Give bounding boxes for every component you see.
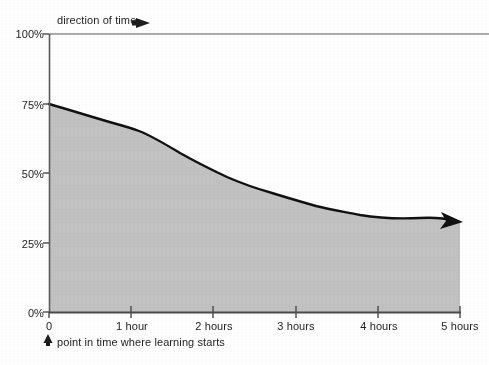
y-axis-label-0: 0% — [4, 307, 44, 319]
chart-canvas — [0, 0, 489, 365]
learning-start-caption: point in time where learning starts — [57, 336, 225, 348]
y-axis-label-100: 100% — [4, 28, 44, 40]
x-axis-label-0-hours: 0 — [40, 320, 58, 332]
direction-of-time-label: direction of time — [57, 14, 136, 26]
x-axis-label-2-hours: 2 hours — [185, 320, 243, 332]
area-fill — [49, 104, 460, 312]
y-axis-label-75: 75% — [4, 99, 44, 111]
direction-of-time-arrow-icon — [136, 18, 150, 28]
learning-start-marker-tail — [46, 341, 50, 346]
x-axis-label-5-hours: 5 hours — [431, 320, 489, 332]
x-axis-label-4-hours: 4 hours — [350, 320, 408, 332]
y-axis-label-50: 50% — [4, 168, 44, 180]
x-axis-label-1-hour: 1 hour — [104, 320, 160, 332]
y-axis-label-25: 25% — [4, 238, 44, 250]
x-axis-label-3-hours: 3 hours — [267, 320, 325, 332]
forgetting-curve-chart: 100% 75% 50% 25% 0% 0 1 hour 2 hours 3 h… — [0, 0, 489, 365]
